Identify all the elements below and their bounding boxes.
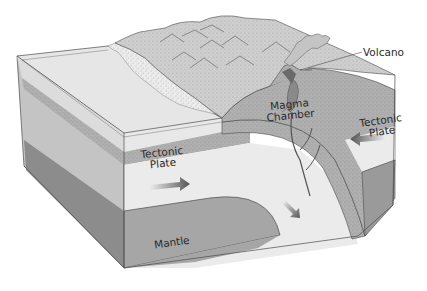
block-diagram-graphic bbox=[0, 0, 427, 291]
subduction-diagram: Volcano Magma Chamber Tectonic Plate Tec… bbox=[0, 0, 427, 291]
label-tectonic-plate-left: Tectonic Plate bbox=[140, 145, 185, 171]
label-volcano-text: Volcano bbox=[363, 46, 404, 58]
label-volcano: Volcano bbox=[363, 47, 404, 58]
